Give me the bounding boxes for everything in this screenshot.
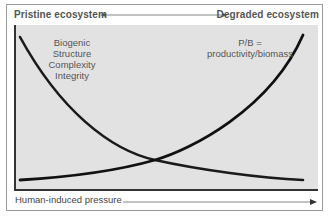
label-line: Structure bbox=[42, 48, 102, 59]
label-line: P/B = bbox=[200, 37, 300, 48]
diagram-graphics bbox=[0, 0, 330, 220]
biogenic-structure-label: Biogenic Structure Complexity Integrity bbox=[42, 37, 102, 81]
arrow-right-icon bbox=[310, 199, 317, 205]
x-axis-label: Human-induced pressure bbox=[15, 194, 122, 205]
bottom-arrow bbox=[123, 199, 317, 205]
top-double-arrow bbox=[100, 13, 228, 17]
arrow-right-icon bbox=[222, 13, 228, 17]
label-line: Biogenic bbox=[42, 37, 102, 48]
label-line: productivity/biomass bbox=[200, 48, 300, 59]
arrow-left-icon bbox=[100, 13, 106, 17]
productivity-biomass-label: P/B = productivity/biomass bbox=[200, 37, 300, 59]
label-line: Integrity bbox=[42, 70, 102, 81]
label-line: Complexity bbox=[42, 59, 102, 70]
